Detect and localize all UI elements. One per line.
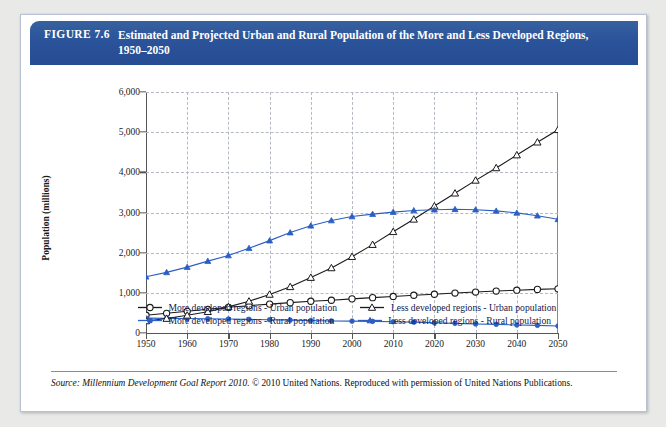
x-axis-tick-mark (476, 334, 477, 339)
data-point-marker (514, 287, 520, 293)
series-3 (146, 206, 558, 279)
data-point-marker (307, 274, 314, 280)
legend-item-ld-rural: Less developed regions - Rural populatio… (357, 313, 551, 327)
figure-title: Estimated and Projected Urban and Rural … (118, 26, 618, 58)
legend-item-md-rural: More developed regions - Rural populatio… (137, 313, 334, 327)
data-point-marker (472, 177, 479, 183)
x-axis-tick-mark (228, 334, 229, 339)
data-point-marker (452, 290, 458, 296)
x-axis-tick-mark (558, 334, 559, 339)
legend-label: More developed regions - Urban populatio… (168, 302, 337, 313)
x-axis-tick-mark (393, 334, 394, 339)
x-axis-tick-mark (517, 334, 518, 339)
filled-triangle-marker-icon (357, 315, 383, 326)
figure-number-label: FIGURE 7.6 (44, 26, 114, 40)
open-triangle-marker-icon (359, 302, 385, 313)
x-axis-tick-label: 1980 (250, 339, 290, 349)
data-point-marker (473, 289, 479, 295)
series-lines (146, 92, 558, 333)
source-divider (51, 371, 617, 372)
y-axis-tick-label: 2,000 (98, 248, 140, 258)
data-point-marker (369, 241, 376, 247)
x-axis-tick-label: 1970 (208, 339, 248, 349)
y-axis-title: Population (millions) (41, 175, 51, 260)
x-axis-tick-label: 2000 (332, 339, 372, 349)
chart-legend: More developed regions - Urban populatio… (137, 300, 607, 330)
y-axis-tick-label: 0 (98, 328, 140, 338)
legend-row-1: More developed regions - Urban populatio… (137, 300, 607, 313)
x-axis-tick-mark (270, 334, 271, 339)
data-point-marker (534, 286, 540, 292)
x-axis-tick-mark (352, 334, 353, 339)
data-point-marker (493, 288, 499, 294)
x-axis-tick-label: 2010 (373, 339, 413, 349)
legend-label: Less developed regions - Rural populatio… (388, 315, 551, 326)
source-citation-rest: © 2010 United Nations. Reproduced with p… (250, 378, 573, 388)
data-point-marker (287, 283, 294, 289)
legend-row-2: More developed regions - Rural populatio… (137, 313, 607, 326)
data-point-marker (513, 151, 520, 157)
data-point-marker (410, 216, 417, 222)
data-point-marker (431, 291, 437, 297)
y-axis-tick-label: 1,000 (98, 288, 140, 298)
source-note: Source: Millennium Development Goal Repo… (51, 377, 626, 390)
data-point-marker (390, 228, 397, 234)
figure-card: FIGURE 7.6 Estimated and Projected Urban… (20, 14, 647, 412)
x-axis-tick-label: 2050 (538, 339, 578, 349)
x-axis-tick-mark (146, 334, 147, 339)
open-circle-marker-icon (137, 302, 163, 313)
legend-label: More developed regions - Rural populatio… (168, 315, 334, 326)
x-axis-tick-label: 1950 (126, 339, 166, 349)
filled-circle-marker-icon (137, 315, 163, 326)
x-axis-tick-label: 2040 (497, 339, 537, 349)
data-point-marker (348, 253, 355, 259)
data-point-marker (328, 264, 335, 270)
data-point-marker (451, 190, 458, 196)
y-axis-tick-label: 3,000 (98, 208, 140, 218)
data-point-marker (555, 286, 558, 292)
x-axis-tick-mark (434, 334, 435, 339)
data-point-marker (534, 139, 541, 145)
data-point-marker (390, 293, 396, 299)
x-axis-tick-mark (187, 334, 188, 339)
x-axis-tick-mark (311, 334, 312, 339)
figure-header-bar: FIGURE 7.6 Estimated and Projected Urban… (30, 21, 638, 65)
data-point-marker (411, 292, 417, 298)
data-point-marker (493, 164, 500, 170)
y-axis-tick-label: 6,000 (98, 87, 140, 97)
y-axis-tick-label: 4,000 (98, 167, 140, 177)
x-axis-tick-label: 2020 (414, 339, 454, 349)
y-axis-tick-label: 5,000 (98, 127, 140, 137)
x-axis-tick-label: 1990 (291, 339, 331, 349)
source-citation-italic: Source: Millennium Development Goal Repo… (51, 378, 250, 388)
x-axis-tick-label: 1960 (167, 339, 207, 349)
legend-label: Less developed regions - Urban populatio… (391, 302, 556, 313)
x-axis-tick-label: 2030 (456, 339, 496, 349)
data-point-marker (554, 126, 558, 132)
